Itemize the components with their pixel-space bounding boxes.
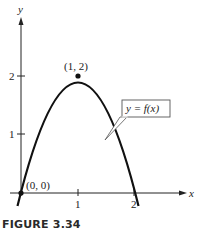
origin-label: (0, 0): [26, 179, 50, 192]
y-axis-arrow-icon: [19, 17, 24, 25]
y-axis-label: y: [17, 3, 23, 15]
callout-pointer: [105, 117, 127, 140]
x-tick-label-2: 2: [131, 198, 137, 210]
y-tick-label-1: 1: [9, 128, 15, 140]
vertex-label: (1, 2): [64, 60, 88, 73]
x-tick-label-1: 1: [75, 198, 81, 210]
x-axis-arrow-icon: [179, 191, 187, 196]
function-label: y = f(x): [125, 102, 159, 115]
y-tick-label-2: 2: [9, 70, 15, 82]
figure-caption: FIGURE 3.34: [2, 218, 81, 231]
vertex-point: [75, 73, 80, 78]
x-axis-label: x: [188, 187, 194, 199]
origin-point: [18, 190, 23, 195]
chart-figure: y x 1 2 1 2 (1, 2) (0, 0) y = f(x): [0, 0, 197, 236]
